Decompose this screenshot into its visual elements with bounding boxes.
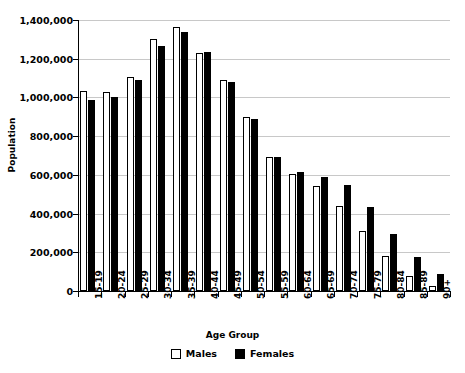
bar-females (158, 46, 165, 291)
bar-males (196, 53, 203, 291)
x-axis-tick-label: 20-24 (117, 270, 127, 299)
bar-group (380, 20, 403, 291)
x-axis-tick-label: 60-64 (303, 270, 313, 299)
bar-males (313, 186, 320, 291)
y-axis-tick-mark (73, 252, 78, 253)
bar-females (135, 80, 142, 291)
open-square-swatch (171, 349, 181, 359)
x-axis-tick-label: 80-84 (396, 270, 406, 299)
bar-group (218, 20, 241, 291)
bar-group (287, 20, 310, 291)
bar-males (336, 206, 343, 291)
bar-group (264, 20, 287, 291)
bar-group (148, 20, 171, 291)
y-axis-tick-label: 0 (7, 286, 73, 297)
x-axis-tick-mark (78, 291, 79, 297)
bar-group (404, 20, 427, 291)
y-axis-tick-mark (73, 20, 78, 21)
legend-item: Males (171, 348, 217, 359)
bar-males (220, 80, 227, 291)
y-axis-tick-label: 400,000 (7, 208, 73, 219)
bar-males (173, 27, 180, 291)
y-axis-tick-mark (73, 59, 78, 60)
bar-group (171, 20, 194, 291)
y-axis-line (78, 20, 79, 291)
y-axis-tick-mark (73, 214, 78, 215)
x-axis-tick-label: 45-49 (233, 270, 243, 299)
population-by-age-group-bar-chart: Population 0200,000400,000600,000800,000… (0, 0, 465, 373)
x-axis-tick-label: 40-44 (210, 270, 220, 299)
bar-males (103, 92, 110, 291)
y-axis-tick-label: 1,000,000 (7, 92, 73, 103)
bar-group (334, 20, 357, 291)
bar-group (78, 20, 101, 291)
bar-males (150, 39, 157, 291)
y-axis-tick-mark (73, 291, 78, 292)
bar-females (88, 100, 95, 291)
bar-group (101, 20, 124, 291)
x-axis-tick-label: 35-39 (187, 270, 197, 299)
y-axis-tick-labels: 0200,000400,000600,000800,0001,000,0001,… (0, 0, 73, 373)
x-axis-tick-label: 85-89 (419, 270, 429, 299)
y-axis-tick-mark (73, 97, 78, 98)
bar-males (382, 256, 389, 291)
y-axis-tick-mark (73, 136, 78, 137)
y-axis-tick-label: 200,000 (7, 247, 73, 258)
bar-group (125, 20, 148, 291)
x-axis-title: Age Group (0, 330, 465, 340)
y-axis-tick-label: 1,200,000 (7, 53, 73, 64)
bar-group (194, 20, 217, 291)
legend-item-label: Females (250, 348, 294, 359)
bar-group (357, 20, 380, 291)
x-axis-tick-label: 25-29 (140, 270, 150, 299)
plot-area (78, 20, 450, 291)
y-axis-tick-label: 800,000 (7, 131, 73, 142)
x-axis-tick-label: 55-59 (280, 270, 290, 299)
bar-group (241, 20, 264, 291)
x-axis-tick-label: 30-34 (163, 270, 173, 299)
filled-square-swatch (235, 349, 245, 359)
x-axis-tick-label: 75-79 (373, 270, 383, 299)
y-axis-tick-label: 1,400,000 (7, 15, 73, 26)
legend-item: Females (235, 348, 294, 359)
bar-males (80, 91, 87, 291)
bar-females (228, 82, 235, 291)
bar-females (181, 32, 188, 291)
y-axis-tick-label: 600,000 (7, 169, 73, 180)
bar-males (289, 174, 296, 291)
bar-group (311, 20, 334, 291)
bar-males (406, 276, 413, 291)
bar-group (427, 20, 450, 291)
x-axis-tick-label: 65-69 (326, 270, 336, 299)
x-axis-tick-label: 50-54 (256, 270, 266, 299)
y-axis-tick-mark (73, 175, 78, 176)
bar-females (111, 97, 118, 291)
bar-males (127, 77, 134, 291)
bar-females (204, 52, 211, 291)
bar-males (266, 157, 273, 291)
bar-males (243, 117, 250, 291)
x-axis-tick-label: 70-74 (349, 270, 359, 299)
bar-males (359, 231, 366, 291)
chart-legend: MalesFemales (0, 348, 465, 359)
x-axis-tick-label: 90+ (442, 279, 452, 299)
legend-item-label: Males (186, 348, 217, 359)
bar-females (251, 119, 258, 291)
x-axis-tick-label: 15-19 (94, 270, 104, 299)
